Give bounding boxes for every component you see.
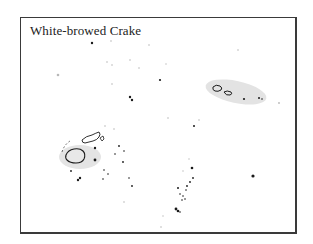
light-islets [57, 40, 280, 228]
viti-levu [66, 149, 85, 163]
range-map [0, 0, 313, 244]
dark-islets [70, 42, 255, 213]
range-area-samoa [203, 75, 268, 109]
vanua-levu [82, 132, 100, 143]
